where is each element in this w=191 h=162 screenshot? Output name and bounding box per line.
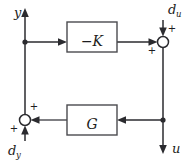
arrowhead-controller-input xyxy=(58,38,67,46)
signal-subscript-du: u xyxy=(176,9,181,19)
arrowhead-plant-input xyxy=(117,116,126,124)
arrowhead-dy-input xyxy=(21,126,29,135)
output-summing-junction[interactable] xyxy=(20,115,31,126)
output-sum-sign-top: + xyxy=(30,101,38,112)
measurement-tap-dot xyxy=(22,39,27,44)
signal-subscript-dy: y xyxy=(15,150,21,160)
arrowhead-sum-input-right xyxy=(31,116,40,124)
block-diagram-svg: −K G + + + + y d u u d y xyxy=(0,0,191,162)
actuation-tap-dot xyxy=(160,117,165,122)
arrowhead-output-u xyxy=(159,145,167,154)
arrowhead-output-y xyxy=(21,8,29,17)
input-sum-sign-left: + xyxy=(148,45,156,56)
input-sum-sign-top: + xyxy=(168,23,176,34)
plant-block-label: G xyxy=(86,116,97,132)
input-summing-junction[interactable] xyxy=(158,37,169,48)
controller-block-label: −K xyxy=(81,33,105,49)
output-sum-sign-left: + xyxy=(10,123,18,134)
signal-label-y: y xyxy=(13,5,22,20)
block-diagram-canvas: −K G + + + + y d u u d y xyxy=(0,0,191,162)
arrowhead-du-input xyxy=(159,28,167,37)
signal-label-u: u xyxy=(172,141,180,156)
